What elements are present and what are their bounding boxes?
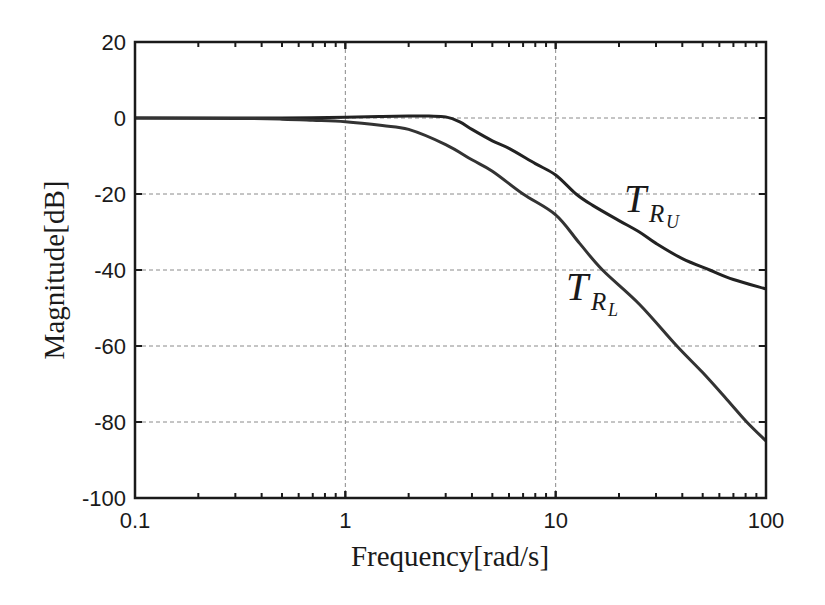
y-axis-title: Magnitude[dB] xyxy=(38,181,70,360)
curves xyxy=(135,116,766,441)
y-tick-label: -80 xyxy=(94,410,126,435)
x-axis-title: Frequency[rad/s] xyxy=(351,540,549,572)
y-tick-label: -100 xyxy=(82,486,126,511)
x-tick-label: 100 xyxy=(748,508,785,533)
bode-magnitude-chart: 0.1110100 200-20-40-60-80-100 Frequency[… xyxy=(0,0,825,605)
svg-text:U: U xyxy=(666,212,680,232)
x-tick-labels: 0.1110100 xyxy=(120,508,785,533)
y-tick-label: -60 xyxy=(94,334,126,359)
x-tick-label: 0.1 xyxy=(120,508,151,533)
curve-label-t-ru: TRU xyxy=(624,176,680,232)
y-tick-label: 20 xyxy=(102,30,126,55)
svg-text:L: L xyxy=(607,300,618,320)
svg-text:R: R xyxy=(590,288,606,315)
curve-t-ru xyxy=(135,116,766,289)
x-tick-label: 10 xyxy=(543,508,567,533)
y-tick-label: 0 xyxy=(114,106,126,131)
curve-t-rl xyxy=(135,118,766,441)
svg-text:T: T xyxy=(566,264,591,309)
svg-text:R: R xyxy=(648,200,664,227)
y-tick-labels: 200-20-40-60-80-100 xyxy=(82,30,126,511)
y-tick-label: -40 xyxy=(94,258,126,283)
curve-label-t-rl: TRL xyxy=(566,264,618,320)
grid-lines xyxy=(135,42,766,498)
svg-text:T: T xyxy=(624,176,649,221)
y-tick-label: -20 xyxy=(94,182,126,207)
x-tick-label: 1 xyxy=(339,508,351,533)
